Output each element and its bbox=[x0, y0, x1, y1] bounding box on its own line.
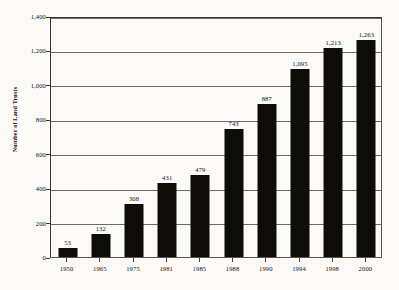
x-axis-tick-mark bbox=[299, 258, 300, 262]
x-axis-tick-mark bbox=[332, 258, 333, 262]
bar[interactable] bbox=[91, 234, 110, 257]
x-axis-tick-mark bbox=[365, 258, 366, 262]
bar-value-label: 479 bbox=[195, 166, 205, 173]
y-axis-tick-label: 0 bbox=[2, 254, 46, 261]
bar[interactable] bbox=[324, 48, 343, 257]
bar-slot: 308 bbox=[117, 18, 150, 257]
bar-value-label: 431 bbox=[162, 174, 172, 181]
x-axis-tick-mark bbox=[99, 258, 100, 262]
bar-value-label: 308 bbox=[129, 195, 139, 202]
bar-chart: Number of Land Trusts 02004006008001,000… bbox=[0, 0, 399, 290]
y-axis-tick-label: 1,200 bbox=[2, 47, 46, 54]
y-axis-tick-label: 200 bbox=[2, 220, 46, 227]
y-axis-tick-label: 1,400 bbox=[2, 13, 46, 20]
bar[interactable] bbox=[124, 204, 143, 257]
bar-slot: 1,095 bbox=[283, 18, 316, 257]
x-axis-tick-label: 2000 bbox=[345, 265, 385, 272]
bar-value-label: 1,263 bbox=[359, 31, 374, 38]
x-axis-tick-mark bbox=[199, 258, 200, 262]
bar-slot: 431 bbox=[151, 18, 184, 257]
y-axis-tick-label: 400 bbox=[2, 185, 46, 192]
bar-value-label: 132 bbox=[96, 225, 106, 232]
x-axis-tick-mark bbox=[166, 258, 167, 262]
plot-area: 531323084314797438871,0951,2131,263 bbox=[50, 17, 382, 258]
x-axis-tick-mark bbox=[265, 258, 266, 262]
bar[interactable] bbox=[357, 40, 376, 257]
bar-slot: 1,213 bbox=[317, 18, 350, 257]
bar[interactable] bbox=[191, 175, 210, 257]
bar-slot: 132 bbox=[84, 18, 117, 257]
bar[interactable] bbox=[224, 129, 243, 257]
x-axis-tick-mark bbox=[133, 258, 134, 262]
bar-slot: 479 bbox=[184, 18, 217, 257]
bar-value-label: 1,213 bbox=[326, 39, 341, 46]
bar-slot: 743 bbox=[217, 18, 250, 257]
bar[interactable] bbox=[58, 248, 77, 257]
y-axis-tick-label: 600 bbox=[2, 151, 46, 158]
y-axis-tick-label: 800 bbox=[2, 116, 46, 123]
bar-value-label: 1,095 bbox=[292, 60, 307, 67]
bar-value-label: 887 bbox=[262, 95, 272, 102]
bar[interactable] bbox=[257, 104, 276, 257]
bar-slot: 53 bbox=[51, 18, 84, 257]
bar-slot: 887 bbox=[250, 18, 283, 257]
bar-value-label: 53 bbox=[64, 239, 71, 246]
x-axis-tick-mark bbox=[232, 258, 233, 262]
bar-value-label: 743 bbox=[228, 120, 238, 127]
bar[interactable] bbox=[290, 69, 309, 257]
x-axis-tick-mark bbox=[66, 258, 67, 262]
bar-slot: 1,263 bbox=[350, 18, 383, 257]
y-axis-tick-label: 1,000 bbox=[2, 82, 46, 89]
bar[interactable] bbox=[158, 183, 177, 257]
